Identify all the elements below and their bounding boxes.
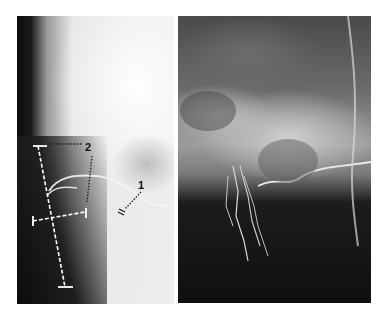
- left-radiograph-panel: [17, 16, 174, 304]
- label-1: 1: [138, 179, 144, 191]
- vessel-contrast-overlay: [178, 16, 371, 303]
- right-radiograph-panel: [178, 16, 371, 303]
- measurement-overlay: [17, 16, 174, 304]
- label-2: 2: [85, 141, 91, 153]
